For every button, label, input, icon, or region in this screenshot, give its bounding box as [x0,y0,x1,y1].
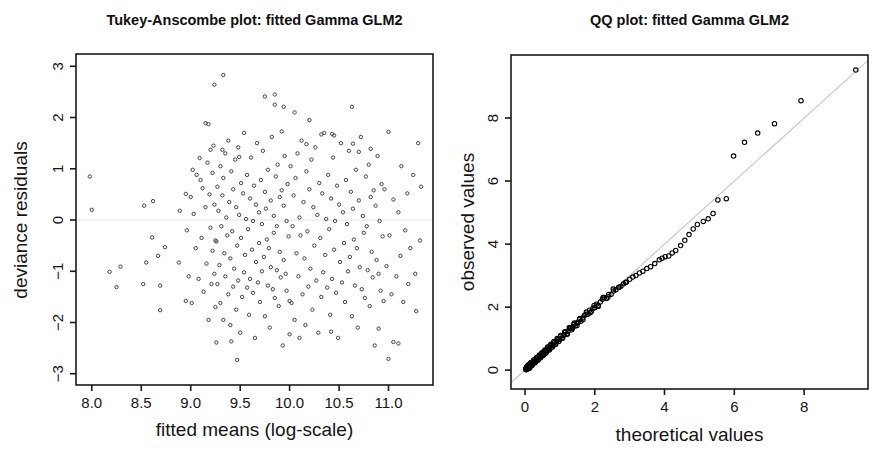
svg-text:8.0: 8.0 [81,394,102,411]
svg-text:10.0: 10.0 [275,394,304,411]
svg-text:−2: −2 [49,314,66,331]
figure-canvas: Tukey-Anscombe plot: fitted Gamma GLM2 Q… [0,0,891,472]
svg-text:9.5: 9.5 [230,394,251,411]
plots-canvas: 8.08.59.09.510.010.511.0−3−2−10123024680… [0,0,891,472]
svg-text:8: 8 [484,114,501,122]
svg-text:4: 4 [660,398,668,415]
svg-text:3: 3 [49,62,66,70]
svg-text:8.5: 8.5 [131,394,152,411]
svg-text:0: 0 [484,366,501,374]
svg-text:10.5: 10.5 [324,394,353,411]
svg-text:2: 2 [484,303,501,311]
svg-text:4: 4 [484,240,501,248]
svg-text:0: 0 [521,398,529,415]
svg-text:0: 0 [49,216,66,224]
svg-text:8: 8 [800,398,808,415]
svg-text:1: 1 [49,165,66,173]
svg-text:11.0: 11.0 [374,394,402,411]
svg-text:6: 6 [484,177,501,185]
svg-text:−3: −3 [49,365,66,382]
svg-text:9.0: 9.0 [180,394,201,411]
svg-text:2: 2 [591,398,599,415]
svg-text:2: 2 [49,113,66,121]
svg-text:6: 6 [730,398,738,415]
svg-text:−1: −1 [49,263,66,280]
